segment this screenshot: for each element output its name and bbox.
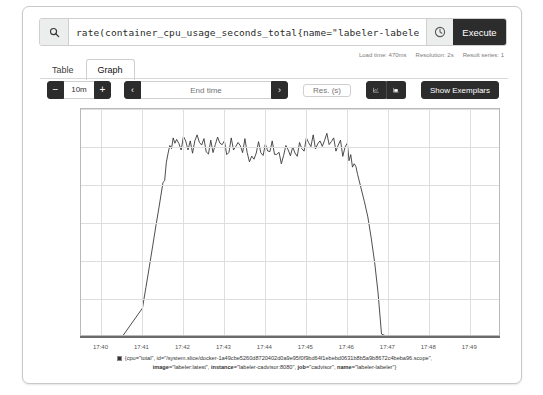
end-time-input[interactable] <box>141 81 271 99</box>
legend-key-image: image= <box>153 364 172 370</box>
view-tabs: Table Graph <box>40 59 135 80</box>
x-axis-line <box>80 336 500 338</box>
range-value[interactable]: 10m <box>64 81 94 99</box>
gridline-vertical <box>265 109 266 335</box>
query-bar: Execute <box>39 18 507 46</box>
range-stepper: − 10m + <box>47 81 111 99</box>
x-axis-tick-label: 17:45 <box>298 344 313 350</box>
search-icon[interactable] <box>40 19 69 45</box>
range-decrease-button[interactable]: − <box>47 81 64 99</box>
gridline-vertical <box>347 109 348 335</box>
legend-key-instance: instance= <box>211 364 237 370</box>
gridline-vertical <box>101 109 102 335</box>
chart-type-toggle <box>366 81 406 99</box>
gridline-horizontal: 0.30 <box>81 109 499 110</box>
x-axis-tick-label: 17:46 <box>339 344 354 350</box>
plot-canvas[interactable]: 0.000.050.100.150.200.250.30 <box>80 108 500 336</box>
x-axis-tick-label: 17:49 <box>462 344 477 350</box>
line-chart-icon[interactable] <box>366 81 386 99</box>
gridline-vertical <box>306 109 307 335</box>
gridline-vertical <box>183 109 184 335</box>
result-series-count: Result series: 1 <box>463 52 504 58</box>
gridline-horizontal: 0.10 <box>81 261 499 262</box>
query-stats: Load time: 470ms Resolution: 2s Result s… <box>359 52 504 58</box>
tab-table[interactable]: Table <box>40 59 86 80</box>
history-clock-icon[interactable] <box>426 19 453 45</box>
prometheus-graph-page: Execute Load time: 470ms Resolution: 2s … <box>0 0 543 395</box>
legend-line-1[interactable]: {cpu="total", id="/system.slice/docker-1… <box>47 354 502 363</box>
tabs-divider <box>40 78 508 79</box>
x-axis-tick-label: 17:43 <box>216 344 231 350</box>
range-increase-button[interactable]: + <box>94 81 111 99</box>
legend: {cpu="total", id="/system.slice/docker-1… <box>47 354 502 372</box>
gridline-vertical <box>470 109 471 335</box>
gridline-horizontal: 0.05 <box>81 299 499 300</box>
load-time: Load time: 470ms <box>359 52 407 58</box>
legend-value-image: "labeler:latest", <box>172 364 211 370</box>
legend-value-instance: "labeler-cadvisor:8080", <box>237 364 298 370</box>
legend-key-name: name= <box>337 364 355 370</box>
resolution-input[interactable] <box>303 84 351 97</box>
legend-key-job: job= <box>298 364 310 370</box>
x-axis-tick-label: 17:48 <box>421 344 436 350</box>
tab-graph[interactable]: Graph <box>86 59 135 80</box>
time-next-button[interactable]: › <box>271 81 288 99</box>
query-input[interactable] <box>69 19 426 45</box>
legend-line-2: image="labeler:latest", instance="labele… <box>47 363 502 372</box>
x-axis-tick-label: 17:40 <box>93 344 108 350</box>
gridline-horizontal: 0.25 <box>81 147 499 148</box>
gridline-vertical <box>388 109 389 335</box>
x-axis-tick-label: 17:44 <box>257 344 272 350</box>
graph-controls: − 10m + ‹ › <box>47 81 499 99</box>
gridline-horizontal: 0.20 <box>81 185 499 186</box>
x-axis-tick-label: 17:42 <box>175 344 190 350</box>
time-prev-button[interactable]: ‹ <box>124 81 141 99</box>
gridline-horizontal: 0.15 <box>81 223 499 224</box>
legend-swatch[interactable] <box>117 356 122 361</box>
end-time-group: ‹ › <box>124 81 288 99</box>
legend-value-name: "labeler-labeler"} <box>355 364 396 370</box>
gridline-vertical <box>142 109 143 335</box>
show-exemplars-button[interactable]: Show Exemplars <box>421 81 499 99</box>
legend-text-1: {cpu="total", id="/system.slice/docker-1… <box>125 355 432 361</box>
query-panel-window: Execute Load time: 470ms Resolution: 2s … <box>22 6 522 384</box>
x-axis-tick-label: 17:47 <box>380 344 395 350</box>
resolution-stat: Resolution: 2s <box>416 52 454 58</box>
graph-area: 0.000.050.100.150.200.250.30 17:4017:411… <box>47 105 502 340</box>
gridline-vertical <box>224 109 225 335</box>
stacked-chart-icon[interactable] <box>386 81 406 99</box>
gridline-vertical <box>429 109 430 335</box>
execute-button[interactable]: Execute <box>453 19 506 45</box>
x-axis-tick-label: 17:41 <box>134 344 149 350</box>
legend-value-job: "cadvisor", <box>309 364 337 370</box>
